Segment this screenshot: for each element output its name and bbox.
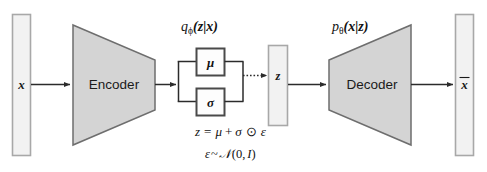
decoder-label: Decoder: [346, 77, 398, 92]
latent-bar-label: z: [275, 69, 281, 83]
reparameterization-equation: z=μ+σ⊙ε: [194, 124, 267, 139]
svg-text:z=μ+σ⊙ε: z=μ+σ⊙ε: [194, 124, 267, 139]
eq-z: z: [194, 124, 200, 139]
eq-plus: +: [225, 124, 232, 139]
eq-sigma: σ: [235, 124, 242, 139]
mu-box-group: μ: [197, 49, 225, 76]
vae-diagram-canvas: x Encoder μ σ: [0, 0, 487, 172]
eq-epsilon: ε: [261, 124, 267, 139]
eq-hadamard-operator: ⊙: [246, 124, 257, 139]
noise-prior-equation: ε~𝒩(0,I): [205, 146, 256, 161]
latent-bar: [269, 46, 288, 126]
input-bar-group: x: [13, 15, 31, 156]
likelihood-p-symbol: p: [331, 19, 339, 34]
vae-diagram: x Encoder μ σ: [0, 0, 487, 172]
paren-close: ): [251, 147, 255, 161]
svg-text:pθ(x|z): pθ(x|z): [331, 19, 368, 36]
encoder-label: Encoder: [89, 77, 140, 92]
latent-bar-group: z: [269, 46, 288, 126]
eq-equals: =: [204, 124, 211, 139]
sigma-box-group: σ: [197, 89, 225, 116]
branch-connectors-left: [178, 62, 196, 102]
likelihood-arguments: (x|z): [344, 19, 369, 35]
output-bar-group: x: [456, 15, 474, 156]
tilde-symbol: ~: [211, 147, 218, 161]
decoder-distribution-label: pθ(x|z): [331, 19, 368, 36]
svg-text:ε~𝒩(0,I): ε~𝒩(0,I): [205, 146, 256, 161]
encoder-distribution-label: qϕ(z|x): [181, 19, 218, 36]
comma-symbol: ,: [242, 147, 245, 161]
encoder-block: Encoder: [73, 25, 155, 145]
mu-label: μ: [206, 55, 214, 70]
eq-mu: μ: [214, 124, 222, 139]
branch-connectors-right: [225, 62, 244, 102]
eps-symbol: ε: [205, 147, 210, 161]
input-bar-label: x: [17, 77, 25, 92]
svg-text:qϕ(z|x): qϕ(z|x): [181, 19, 218, 36]
decoder-block: Decoder: [329, 25, 411, 145]
output-bar-label: x: [460, 77, 468, 92]
posterior-arguments: (z|x): [193, 19, 218, 35]
sigma-label: σ: [207, 95, 215, 110]
posterior-q-symbol: q: [181, 19, 188, 34]
